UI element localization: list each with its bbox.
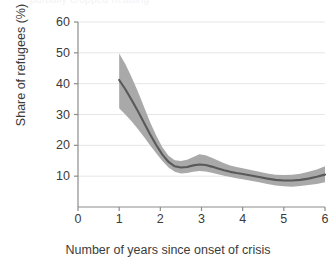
confidence-band [119,53,325,186]
plot-area [0,0,336,271]
gridlines [78,22,325,176]
chart-container: partially cropped heading Share of refug… [0,0,336,271]
